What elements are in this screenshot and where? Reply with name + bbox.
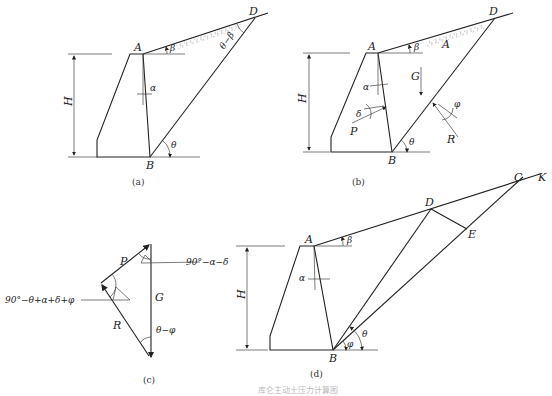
svg-text:D: D: [488, 5, 498, 18]
svg-text:θ: θ: [362, 329, 368, 339]
retaining-wall: [97, 54, 150, 157]
coulomb-earth-pressure-figure: H α β θ θ−β A B D (a) H α: [0, 0, 552, 396]
svg-text:β: β: [169, 43, 175, 53]
svg-text:δ: δ: [356, 109, 361, 119]
slip-plane-BD: [333, 209, 431, 350]
svg-text:B: B: [387, 154, 396, 167]
svg-text:α: α: [150, 83, 156, 93]
svg-text:A: A: [441, 38, 450, 51]
svg-text:K: K: [537, 171, 547, 184]
svg-text:φ: φ: [454, 99, 461, 109]
svg-text:P: P: [349, 125, 358, 138]
line-DE: [431, 209, 467, 229]
svg-text:(b): (b): [352, 177, 365, 187]
svg-text:D: D: [248, 5, 258, 18]
svg-text:(a): (a): [132, 177, 144, 187]
svg-text:(c): (c): [143, 375, 155, 385]
panel-c-force-polygon: 90°−α−δ 90°−θ+α+δ+φ θ−φ P G R (c): [5, 244, 229, 385]
svg-text:H: H: [235, 289, 248, 300]
svg-text:β: β: [413, 42, 419, 52]
svg-text:θ: θ: [171, 140, 177, 150]
svg-text:90°−θ+α+δ+φ: 90°−θ+α+δ+φ: [5, 295, 75, 305]
svg-text:(d): (d): [310, 369, 323, 379]
retaining-wall: [270, 246, 333, 350]
svg-text:θ−φ: θ−φ: [156, 325, 176, 335]
svg-text:β: β: [346, 235, 352, 245]
svg-text:A: A: [133, 41, 142, 54]
svg-text:α: α: [299, 273, 305, 283]
svg-text:90°−α−δ: 90°−α−δ: [186, 257, 229, 267]
svg-text:θ: θ: [409, 137, 415, 147]
svg-text:R: R: [112, 319, 121, 332]
svg-text:R: R: [446, 133, 455, 146]
svg-text:P: P: [119, 255, 128, 268]
svg-text:C: C: [514, 171, 523, 184]
label-H: H: [62, 96, 75, 107]
panel-b: H α β A G δ P φ R θ A B D (b): [296, 5, 513, 187]
svg-text:A: A: [304, 233, 313, 246]
svg-text:D: D: [424, 196, 434, 209]
panel-d: H α β φ θ A B D E C K (d): [235, 171, 547, 379]
svg-text:G: G: [411, 70, 420, 83]
svg-text:H: H: [296, 93, 309, 104]
backfill-surface: [143, 13, 268, 54]
figure-caption: 库仑主动土压力计算图: [258, 385, 338, 395]
retaining-wall: [331, 53, 392, 152]
svg-text:B: B: [145, 159, 154, 172]
svg-text:B: B: [328, 352, 337, 365]
panel-a: H α β θ θ−β A B D (a): [62, 5, 268, 187]
svg-text:A: A: [367, 40, 376, 53]
svg-text:φ: φ: [347, 339, 354, 349]
svg-text:E: E: [467, 228, 476, 241]
svg-text:α: α: [363, 82, 369, 92]
svg-text:G: G: [155, 291, 164, 304]
